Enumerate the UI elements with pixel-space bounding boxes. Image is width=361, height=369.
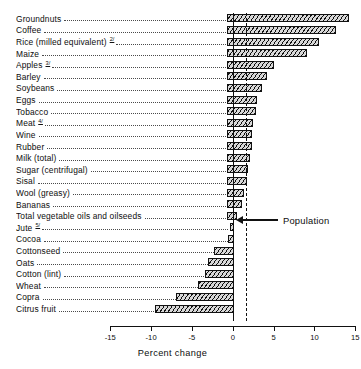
- bar-plot-area: [0, 94, 361, 106]
- bar-plot-area: [0, 257, 361, 269]
- bar-plot-area: [0, 141, 361, 153]
- x-axis-tick: [314, 326, 315, 331]
- bar-plot-area: [0, 303, 361, 315]
- x-axis-tick-label: -10: [145, 333, 156, 342]
- x-axis-tick: [151, 326, 152, 331]
- bar: [155, 305, 234, 313]
- bar-plot-area: [0, 129, 361, 141]
- chart-row: Cotton (lint): [0, 268, 361, 280]
- x-axis-tick: [192, 326, 193, 331]
- chart-row: Cottonseed: [0, 245, 361, 257]
- bar: [227, 130, 253, 138]
- chart-row: Wool (greasy): [0, 187, 361, 199]
- chart-row: Tobacco: [0, 106, 361, 118]
- x-axis-tick-label: -5: [188, 333, 195, 342]
- chart-rows: GroundnutsCoffeeRice (milled equivalent)…: [0, 13, 361, 315]
- arrow-shaft: [243, 219, 278, 220]
- chart-row: Coffee: [0, 25, 361, 37]
- bar-plot-area: [0, 176, 361, 188]
- bar: [214, 247, 234, 255]
- bar-plot-area: [0, 234, 361, 246]
- bar-plot-area: [0, 25, 361, 37]
- bar: [227, 107, 256, 115]
- chart-row: Wine: [0, 129, 361, 141]
- bar: [205, 270, 234, 278]
- chart-row: Maize: [0, 48, 361, 60]
- bar-plot-area: [0, 48, 361, 60]
- bar: [227, 119, 253, 127]
- population-annotation: Population: [236, 214, 329, 226]
- arrow-left-icon: [236, 216, 243, 224]
- bar-chart: GroundnutsCoffeeRice (milled equivalent)…: [0, 0, 361, 369]
- bar: [227, 61, 274, 69]
- chart-row: Wheat: [0, 280, 361, 292]
- chart-row: Meat4/: [0, 117, 361, 129]
- chart-row: Copra: [0, 292, 361, 304]
- bar: [227, 38, 320, 46]
- bar-plot-area: [0, 106, 361, 118]
- bar-plot-area: [0, 59, 361, 71]
- x-axis-tick: [110, 326, 111, 331]
- chart-row: Groundnuts: [0, 13, 361, 25]
- zero-axis-line: [233, 13, 234, 321]
- bar-plot-area: [0, 268, 361, 280]
- chart-row: Sisal: [0, 176, 361, 188]
- x-axis-tick: [233, 326, 234, 331]
- chart-row: Bananas: [0, 199, 361, 211]
- chart-row: Citrus fruit: [0, 303, 361, 315]
- bar: [176, 293, 234, 301]
- bar: [227, 200, 242, 208]
- x-axis-title: Percent change: [0, 348, 361, 358]
- bar-plot-area: [0, 280, 361, 292]
- x-axis-tick-label: 15: [351, 333, 360, 342]
- population-annotation-label: Population: [283, 215, 329, 226]
- bar: [227, 26, 336, 34]
- chart-row: Barley: [0, 71, 361, 83]
- bar-plot-area: [0, 71, 361, 83]
- bar-plot-area: [0, 36, 361, 48]
- chart-row: Oats: [0, 257, 361, 269]
- x-axis-tick-label: 0: [231, 333, 235, 342]
- chart-row: Rubber: [0, 141, 361, 153]
- population-reference-line: [246, 13, 247, 321]
- x-axis-tick-label: 10: [310, 333, 319, 342]
- chart-row: Eggs: [0, 94, 361, 106]
- bar: [208, 258, 234, 266]
- bar: [227, 177, 247, 185]
- bar-plot-area: [0, 199, 361, 211]
- bar: [227, 96, 258, 104]
- bar-plot-area: [0, 292, 361, 304]
- bar-plot-area: [0, 13, 361, 25]
- chart-row: Cocoa: [0, 234, 361, 246]
- bar-plot-area: [0, 152, 361, 164]
- x-axis-title-text: Percent change: [138, 348, 207, 358]
- bar-plot-area: [0, 117, 361, 129]
- bar: [198, 281, 234, 289]
- x-axis-tick-label: -15: [105, 333, 116, 342]
- x-axis-tick: [274, 326, 275, 331]
- chart-row: Rice (milled equivalent)2/: [0, 36, 361, 48]
- chart-row: Apples3/: [0, 59, 361, 71]
- bar: [227, 189, 244, 197]
- bar-plot-area: [0, 187, 361, 199]
- chart-row: Soybeans: [0, 83, 361, 95]
- chart-row: Sugar (centrifugal): [0, 164, 361, 176]
- bar: [227, 142, 252, 150]
- bar-plot-area: [0, 164, 361, 176]
- chart-row: Milk (total): [0, 152, 361, 164]
- x-axis-tick-label: 5: [271, 333, 275, 342]
- x-axis-tick: [355, 326, 356, 331]
- bar-plot-area: [0, 245, 361, 257]
- bar: [227, 49, 307, 57]
- bar-plot-area: [0, 83, 361, 95]
